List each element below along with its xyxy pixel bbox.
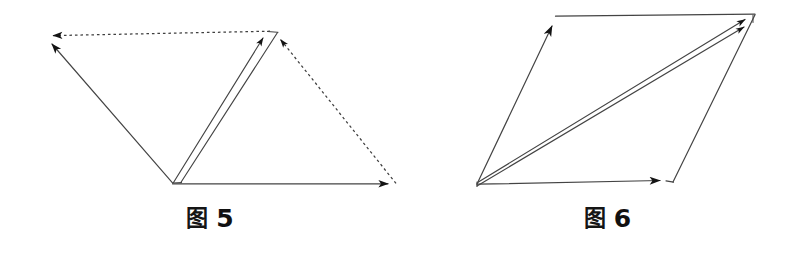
fig6-diagonal-lower (477, 27, 744, 186)
fig6-diagonal-upper (478, 20, 745, 183)
figure-6-caption-number: 6 (614, 206, 631, 231)
figure-5-drawing (0, 0, 420, 206)
fig5-dashed-top-edge (53, 31, 270, 35)
figure-6-caption-word: 图 (584, 207, 606, 230)
fig5-dashed-right-edge (281, 40, 397, 184)
figure-6-drawing (420, 0, 795, 206)
figure-panel-5: 图 5 (0, 0, 420, 264)
fig5-slab-left-edge (174, 38, 264, 183)
figure-5-caption: 图 5 (0, 206, 420, 231)
figure-6-caption: 图 6 (420, 206, 795, 231)
figure-5-caption-word: 图 (187, 207, 209, 230)
fig6-top-edge (556, 14, 756, 16)
fig6-bottom-right-stub (666, 181, 674, 182)
fig6-bottom-edge (477, 181, 660, 185)
figure-panel-6: 图 6 (420, 0, 795, 264)
figure-sheet: 图 5 (0, 0, 795, 264)
fig5-solid-diagonal-upleft (52, 44, 173, 183)
fig5-slab-right-edge (181, 33, 278, 183)
figure-5-caption-number: 5 (216, 206, 233, 231)
fig6-right-edge (673, 15, 755, 182)
fig5-slab-apex-stub (268, 32, 279, 33)
